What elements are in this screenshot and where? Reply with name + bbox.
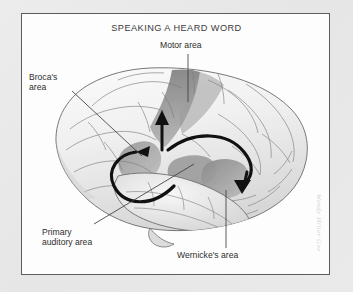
label-primary-auditory-area: Primary auditory area: [42, 227, 92, 248]
figure-title: SPEAKING A HEARD WORD: [22, 23, 329, 33]
label-primary-auditory-line1: Primary: [42, 227, 92, 237]
label-primary-auditory-line2: auditory area: [42, 237, 92, 247]
figure-plate: SPEAKING A HEARD WORD Motor area Broca's…: [22, 14, 329, 274]
label-wernickes-area-text: Wernicke's area: [177, 250, 238, 260]
figure-frame: SPEAKING A HEARD WORD Motor area Broca's…: [21, 13, 330, 275]
label-motor-area: Motor area: [160, 40, 202, 50]
label-wernickes-area: Wernicke's area: [177, 250, 238, 260]
label-motor-area-text: Motor area: [160, 40, 202, 50]
label-brocas-area: Broca's area: [29, 72, 57, 93]
label-brocas-area-line1: Broca's: [29, 72, 57, 82]
label-brocas-area-line2: area: [29, 82, 57, 92]
figure-canvas: SPEAKING A HEARD WORD Motor area Broca's…: [0, 0, 353, 292]
artist-signature: Wendy Hiller Gee: [315, 194, 323, 252]
